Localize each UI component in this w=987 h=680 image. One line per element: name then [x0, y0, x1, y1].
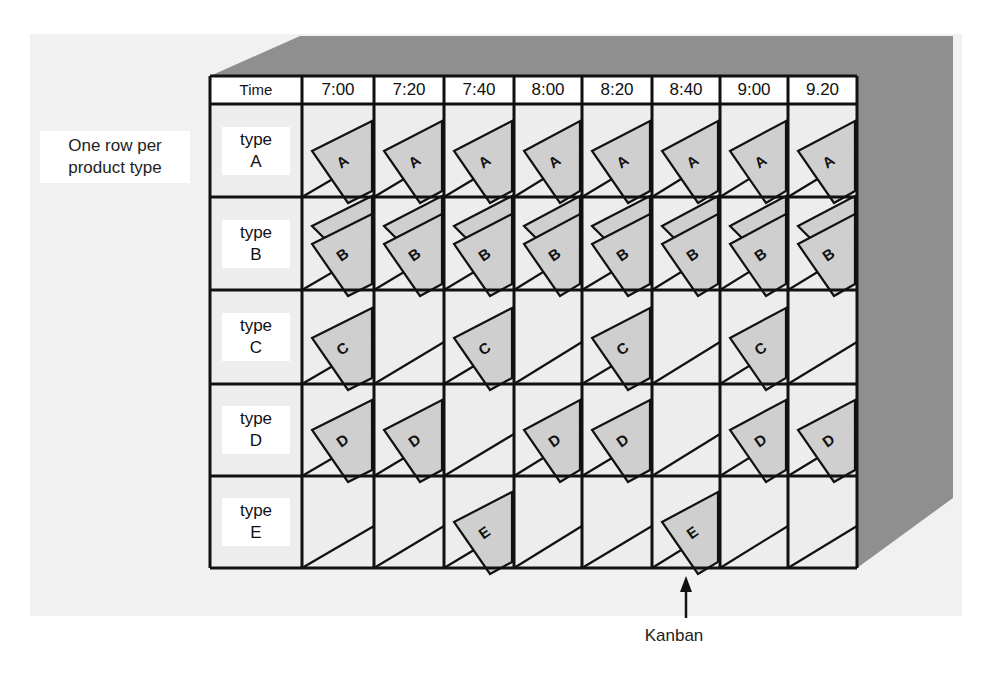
column-header-time: 7:40 — [446, 78, 512, 102]
column-header-time: 9.20 — [790, 78, 855, 102]
row-label-word: type — [222, 500, 290, 522]
row-label-type-e: typeE — [222, 498, 290, 546]
header-time-label: Time — [212, 78, 300, 102]
row-label-type-c: typeC — [222, 313, 290, 361]
row-label-letter: D — [222, 430, 290, 452]
box-top-face — [210, 36, 953, 76]
side-annotation: One row per product type — [40, 131, 190, 183]
row-label-letter: B — [222, 244, 290, 266]
row-label-word: type — [222, 129, 290, 151]
column-header-time: 9:00 — [722, 78, 786, 102]
column-header-time: 8:40 — [654, 78, 718, 102]
column-header-time: 7:20 — [376, 78, 442, 102]
side-annotation-line-1: One row per — [40, 135, 190, 157]
column-header-time: 8:00 — [516, 78, 580, 102]
row-label-letter: A — [222, 151, 290, 173]
row-label-type-a: typeA — [222, 127, 290, 175]
heijunka-box-diagram: AAAAAAAABBBBBBBBCCCCDDDDDDEE — [0, 0, 987, 680]
row-label-word: type — [222, 222, 290, 244]
box-right-face — [857, 36, 953, 568]
column-header-time: 7:00 — [304, 78, 372, 102]
row-label-letter: E — [222, 522, 290, 544]
row-label-letter: C — [222, 337, 290, 359]
row-label-type-d: typeD — [222, 406, 290, 454]
row-label-type-b: typeB — [222, 220, 290, 268]
row-label-word: type — [222, 315, 290, 337]
column-header-time: 8:20 — [584, 78, 650, 102]
kanban-arrow-head — [680, 576, 692, 592]
row-label-word: type — [222, 408, 290, 430]
side-annotation-line-2: product type — [40, 157, 190, 179]
kanban-pointer-label: Kanban — [634, 624, 714, 648]
